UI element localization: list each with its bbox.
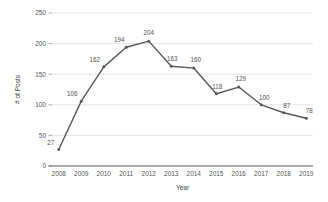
x-tick-label: 2019 xyxy=(299,170,314,177)
data-point-marker xyxy=(215,92,218,95)
y-tick-label: 50 xyxy=(39,132,47,139)
x-tick-label: 2013 xyxy=(164,170,179,177)
y-tick-label: 150 xyxy=(35,71,46,78)
data-point-label: 118 xyxy=(212,83,223,90)
data-point-marker xyxy=(192,67,195,70)
data-point-marker xyxy=(125,46,128,49)
x-tick-label: 2010 xyxy=(97,170,112,177)
data-point-marker xyxy=(282,111,285,114)
data-point-label: 78 xyxy=(306,107,314,114)
data-point-label: 100 xyxy=(259,94,270,101)
y-tick-label: 0 xyxy=(42,162,46,169)
data-point-label: 204 xyxy=(143,29,154,36)
y-tick-label: 200 xyxy=(35,40,46,47)
data-point-label: 87 xyxy=(283,102,291,109)
data-point-marker xyxy=(80,100,83,103)
data-point-label: 160 xyxy=(190,56,201,63)
data-point-marker xyxy=(147,40,150,43)
data-point-label: 106 xyxy=(67,90,78,97)
data-point-label: 27 xyxy=(47,139,55,146)
data-point-marker xyxy=(260,103,263,106)
data-point-label: 194 xyxy=(114,36,125,43)
y-axis-title: # of Posts xyxy=(14,74,21,104)
x-tick-label: 2017 xyxy=(254,170,269,177)
y-tick-label: 250 xyxy=(35,9,46,16)
x-tick-label: 2009 xyxy=(74,170,89,177)
data-point-marker xyxy=(170,65,173,68)
data-point-marker xyxy=(57,148,60,151)
data-point-label: 163 xyxy=(167,55,178,62)
x-tick-label: 2016 xyxy=(232,170,247,177)
x-tick-label: 2012 xyxy=(142,170,157,177)
x-tick-label: 2018 xyxy=(277,170,292,177)
line-chart: 0501001502002502008200920102011201220132… xyxy=(0,0,328,202)
x-tick-label: 2015 xyxy=(209,170,224,177)
data-point-marker xyxy=(305,117,308,120)
data-point-marker xyxy=(237,86,240,89)
x-tick-label: 2008 xyxy=(52,170,67,177)
data-point-label: 129 xyxy=(235,75,246,82)
x-axis-title: Year xyxy=(176,184,190,191)
x-tick-label: 2011 xyxy=(119,170,133,177)
x-tick-label: 2014 xyxy=(187,170,202,177)
data-point-marker xyxy=(102,65,105,68)
data-point-label: 162 xyxy=(89,56,100,63)
y-tick-label: 100 xyxy=(35,101,46,108)
chart-canvas: 0501001502002502008200920102011201220132… xyxy=(0,0,328,202)
